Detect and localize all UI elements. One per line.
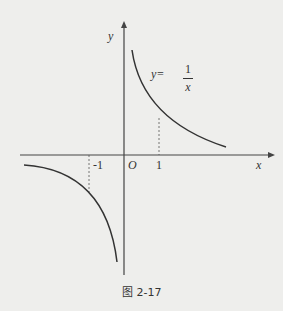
fraction-bar xyxy=(183,78,193,79)
x-axis-arrow-icon xyxy=(268,152,275,158)
fraction-numerator: 1 xyxy=(183,62,193,77)
equation-fraction: 1 x xyxy=(183,62,193,95)
hyperbola-plot xyxy=(0,0,283,311)
x-axis-label: x xyxy=(256,159,261,171)
tick-label-one: 1 xyxy=(156,159,162,171)
figure-caption: 图 2-17 xyxy=(122,283,161,299)
equation-lhs: y= xyxy=(151,68,164,80)
fraction-denominator: x xyxy=(183,80,193,95)
curve-positive-branch xyxy=(132,50,226,147)
y-axis-label: y xyxy=(108,30,113,42)
y-axis-arrow-icon xyxy=(121,21,127,28)
curve-negative-branch xyxy=(24,165,117,262)
origin-label: O xyxy=(128,159,137,171)
tick-label-neg-one: -1 xyxy=(93,159,103,171)
